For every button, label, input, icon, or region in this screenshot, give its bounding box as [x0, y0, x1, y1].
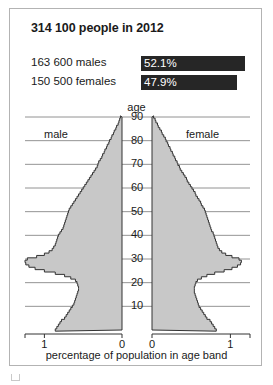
age-tick-60: 60: [122, 181, 152, 193]
females-percent-value: 47.9%: [144, 76, 177, 88]
x-tick-left-0: 0: [112, 338, 132, 350]
x-axis-title: percentage of population in age band: [0, 349, 273, 361]
age-tick-90: 90: [122, 110, 152, 122]
age-tick-70: 70: [122, 157, 152, 169]
age-tick-10: 10: [122, 299, 152, 311]
male-series-label: male: [44, 128, 68, 140]
age-tick-20: 20: [122, 276, 152, 288]
males-count-label: 163 600 males: [31, 56, 106, 68]
x-tick-right-0: 0: [142, 338, 162, 350]
x-tick-right-1: 1: [220, 338, 240, 350]
age-tick-80: 80: [122, 134, 152, 146]
males-percent-bar: 52.1%: [141, 56, 245, 71]
page-corner-mark: [11, 374, 20, 381]
females-percent-bar: 47.9%: [141, 75, 237, 90]
x-tick-left-1: 1: [34, 338, 54, 350]
males-percent-value: 52.1%: [144, 57, 177, 69]
age-tick-50: 50: [122, 205, 152, 217]
females-count-label: 150 500 females: [31, 75, 116, 87]
page-title: 314 100 people in 2012: [31, 21, 164, 35]
female-series-label: female: [186, 128, 219, 140]
age-tick-40: 40: [122, 228, 152, 240]
age-tick-30: 30: [122, 252, 152, 264]
